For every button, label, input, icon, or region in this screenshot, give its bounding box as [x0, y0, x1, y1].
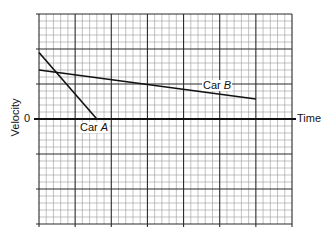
car-a-label: Car A — [79, 122, 109, 133]
zero-tick-label: 0 — [24, 113, 30, 124]
car-b-label: Car B — [202, 80, 232, 91]
car-a-prefix: Car — [80, 121, 101, 133]
car-a-letter: A — [101, 121, 108, 133]
car-b-prefix: Car — [203, 79, 224, 91]
y-axis-label: Velocity — [10, 97, 21, 139]
major-grid — [36, 14, 292, 227]
velocity-time-graph — [0, 0, 328, 237]
car-b-letter: B — [224, 79, 231, 91]
x-axis-label: Time — [297, 113, 321, 124]
